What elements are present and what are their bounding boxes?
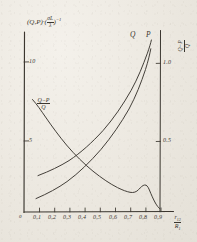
bottom-tick-label-0p9: 0,9	[154, 214, 162, 220]
curve-label-ratio-den: Q	[37, 104, 50, 110]
bottom-tick-label-0p7: 0,7	[124, 214, 132, 220]
curve-label-ratio: Q−P Q	[37, 97, 50, 110]
left-tick-label-10: 10	[29, 58, 35, 64]
curve-label-p: P	[146, 31, 151, 39]
left-axis-label-exponent: −1	[56, 17, 61, 22]
bottom-axis-label-den-sub: 1	[178, 226, 180, 231]
right-axis-label-fraction: Q−P Q	[178, 40, 190, 52]
curve-label-q: Q	[130, 31, 135, 39]
figure-root: (Q,P)·( σL λ )−1 10 5 Q−P Q 1.0 0.5 0,1 …	[0, 0, 197, 242]
bottom-tick-label-0p4: 0,4	[78, 214, 86, 220]
curve-label-ratio-fraction: Q−P Q	[37, 97, 50, 110]
bottom-axis-label-num-sub: 12	[177, 217, 181, 222]
origin-label: 0	[19, 214, 22, 219]
curve-ratio	[33, 100, 160, 209]
left-axis-label-den: λ	[47, 23, 54, 29]
bottom-tick-label-0p1: 0,1	[33, 214, 41, 220]
bottom-tick-label-0p6: 0,6	[109, 214, 117, 220]
right-axis-line	[160, 31, 161, 212]
left-axis-label-fraction: σL λ	[47, 16, 54, 28]
bottom-axis-label-num: r12	[174, 214, 181, 223]
right-axis-label-den: Q	[185, 40, 191, 52]
right-tick-label-1p0: 1.0	[163, 59, 171, 65]
left-axis-label-main: (Q,P)	[27, 18, 43, 26]
right-tick-label-0p5: 0.5	[163, 137, 171, 143]
curve-label-ratio-num: Q−P	[37, 97, 50, 104]
curve-q	[36, 49, 151, 199]
bottom-tick-label-0p3: 0,3	[63, 214, 71, 220]
right-axis-label: Q−P Q	[178, 40, 190, 52]
bottom-axis-label-fraction: r12 R1	[174, 214, 181, 232]
left-axis-line	[24, 32, 25, 213]
bottom-axis-label-den: R1	[174, 223, 181, 231]
left-tick-label-5: 5	[29, 137, 32, 143]
plot-canvas	[0, 0, 197, 242]
bottom-tick-label-0p5: 0,5	[93, 214, 101, 220]
bottom-axis-line	[24, 212, 174, 213]
bottom-tick-label-0p2: 0,2	[48, 214, 56, 220]
curve-p	[38, 40, 151, 176]
left-axis-label: (Q,P)·( σL λ )−1	[27, 16, 61, 28]
bottom-tick-label-0p8: 0,8	[139, 214, 147, 220]
bottom-axis-label: r12 R1	[174, 214, 181, 232]
